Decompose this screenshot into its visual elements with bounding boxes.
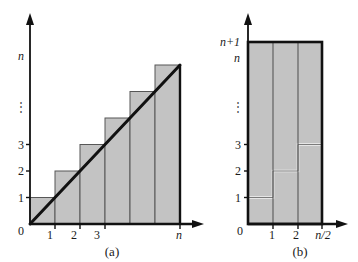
- panel-b-x-axis-label: n/2: [315, 228, 330, 242]
- panel-a-x-axis-label: n: [176, 228, 182, 242]
- panel-b-x-tick-1: 1: [269, 228, 275, 242]
- x-axis-arrow-a: [192, 220, 204, 228]
- panel-a-x-tick-2: 2: [71, 228, 77, 242]
- panel-b: n+1 n ⋮ 3 2 1 0 1 2 n/2 (b): [220, 13, 348, 259]
- panel-b-y-tick-2: 2: [235, 164, 241, 178]
- panel-a-origin-label: 0: [18, 224, 24, 238]
- x-axis-arrow-b: [336, 220, 348, 228]
- panel-a-y-tick-2: 2: [18, 164, 24, 178]
- panel-a-y-tick-3: 3: [18, 138, 24, 152]
- bar-5: [130, 92, 155, 225]
- panel-b-y-axis-label-top: n+1: [220, 35, 240, 49]
- y-axis-arrow-a: [26, 13, 34, 25]
- bar-2: [55, 171, 80, 224]
- panel-a: n ⋮ 3 2 1 0 1 2 3 n (a): [15, 13, 204, 259]
- panel-a-x-tick-1: 1: [47, 228, 53, 242]
- panel-b-y-ellipsis: ⋮: [232, 100, 244, 114]
- panel-b-x-tick-2: 2: [293, 228, 299, 242]
- bar-4: [105, 118, 130, 224]
- panel-a-caption: (a): [105, 244, 119, 259]
- panel-b-y-tick-1: 1: [235, 191, 241, 205]
- panel-b-y-tick-3: 3: [235, 138, 241, 152]
- figure-svg: n ⋮ 3 2 1 0 1 2 3 n (a): [0, 0, 358, 262]
- figure-root: n ⋮ 3 2 1 0 1 2 3 n (a): [0, 0, 358, 262]
- panel-a-x-tick-3: 3: [94, 228, 100, 242]
- y-axis-arrow-b: [244, 13, 252, 25]
- panel-a-y-ellipsis: ⋮: [15, 100, 27, 114]
- panel-b-caption: (b): [292, 244, 307, 259]
- panel-a-y-axis-label: n: [18, 49, 24, 63]
- panel-b-y-axis-label-n: n: [234, 51, 240, 65]
- panel-b-origin-label: 0: [237, 224, 243, 238]
- panel-a-y-tick-1: 1: [18, 191, 24, 205]
